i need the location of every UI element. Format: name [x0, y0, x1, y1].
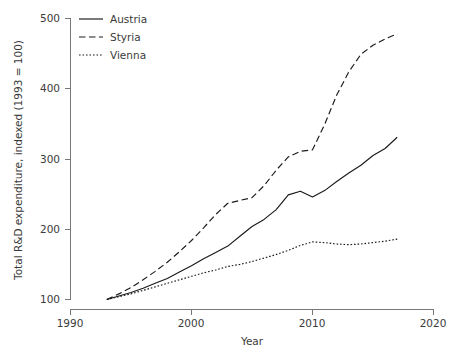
x-axis-ticks	[71, 310, 434, 316]
series-line-styria	[107, 34, 397, 300]
y-tick-label-300: 300	[40, 153, 60, 165]
legend-label-vienna: Vienna	[110, 49, 146, 61]
x-tick-label-2010: 2010	[299, 317, 326, 329]
y-tick-label-200: 200	[40, 223, 60, 235]
legend-label-austria: Austria	[110, 13, 147, 25]
chart-legend: Austria Styria Vienna	[79, 13, 147, 61]
legend-label-styria: Styria	[110, 31, 141, 43]
chart-figure: 500 400 300 200 100 1990 2000 2010 2020 …	[0, 0, 453, 359]
x-tick-label-1990: 1990	[57, 317, 84, 329]
y-tick-label-100: 100	[40, 293, 60, 305]
y-tick-label-400: 400	[40, 82, 60, 94]
x-tick-label-2020: 2020	[420, 317, 447, 329]
line-chart: 500 400 300 200 100 1990 2000 2010 2020 …	[0, 0, 453, 359]
x-tick-label-2000: 2000	[178, 317, 205, 329]
y-axis-title: Total R&D expenditure, indexed (1993 = 1…	[12, 40, 24, 281]
y-axis-ticks	[65, 19, 71, 300]
series-line-austria	[107, 137, 397, 299]
x-axis-title: Year	[240, 335, 264, 347]
y-tick-label-500: 500	[40, 12, 60, 24]
series-line-vienna	[107, 239, 397, 299]
